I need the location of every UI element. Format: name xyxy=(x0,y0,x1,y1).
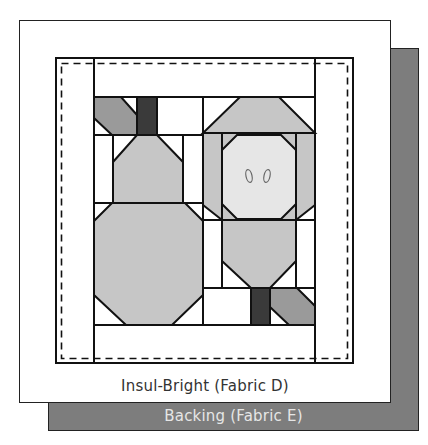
apple-stem xyxy=(251,288,270,325)
pear-body xyxy=(94,203,203,325)
pear-stem xyxy=(137,97,157,135)
insul-bright-label: Insul-Bright (Fabric D) xyxy=(19,377,391,395)
backing-label: Backing (Fabric E) xyxy=(48,407,419,425)
apple-flesh xyxy=(222,135,296,219)
